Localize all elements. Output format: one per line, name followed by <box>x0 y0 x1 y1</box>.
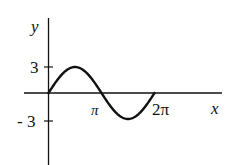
x-axis-label: x <box>211 100 219 117</box>
x-tick-label-pi: π <box>91 103 99 118</box>
x-tick-label-2pi: 2π <box>152 101 169 118</box>
y-tick-label-3: 3 <box>30 59 39 76</box>
y-axis-label: y <box>31 18 39 35</box>
y-tick-label-neg3: - 3 <box>17 113 35 130</box>
